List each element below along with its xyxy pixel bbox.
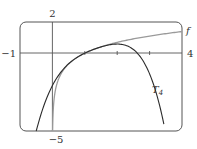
t4-label: T4	[152, 84, 163, 97]
x-max-label: 4	[187, 48, 193, 59]
y-min-label: −5	[49, 134, 64, 145]
plot-frame	[20, 22, 182, 131]
x-min-label: −1	[1, 48, 16, 59]
t4-label-subscript: 4	[158, 89, 163, 97]
f-label: f	[185, 25, 192, 36]
y-max-label: 2	[49, 8, 55, 19]
chart: 2 −1 4 −5 f T4	[0, 0, 197, 149]
